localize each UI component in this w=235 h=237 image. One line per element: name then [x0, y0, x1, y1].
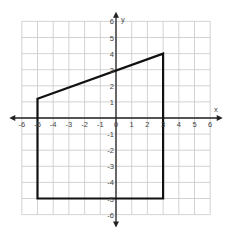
y-tick-label: 4 [110, 50, 114, 59]
x-axis-arrow-right-icon [217, 115, 223, 121]
x-tick-label: 1 [130, 120, 134, 129]
x-tick-label: 3 [161, 120, 165, 129]
coordinate-plane: -6-5-4-3-2-10123456-6-5-4-3-2-1123456 x … [0, 0, 235, 237]
x-tick-label: 0 [114, 120, 118, 129]
y-tick-label: 3 [110, 66, 114, 75]
x-tick-label: -3 [66, 120, 73, 129]
x-tick-label: 6 [208, 120, 212, 129]
y-tick-label: 1 [110, 98, 114, 107]
y-tick-label: -1 [107, 130, 114, 139]
x-tick-label: 5 [192, 120, 196, 129]
y-axis-arrow-down-icon [113, 221, 119, 227]
x-axis-arrow-left-icon [9, 115, 15, 121]
x-axis-label: x [214, 105, 218, 114]
x-tick-label: -1 [97, 120, 104, 129]
y-tick-label: 6 [110, 17, 114, 26]
y-tick-label: -5 [107, 195, 114, 204]
x-tick-label: 2 [145, 120, 149, 129]
y-tick-label: 5 [110, 34, 114, 43]
x-tick-label: -2 [81, 120, 88, 129]
x-tick-label: 4 [177, 120, 181, 129]
x-tick-label: -5 [34, 120, 41, 129]
y-tick-label: 2 [110, 82, 114, 91]
y-tick-label: -2 [107, 146, 114, 155]
y-tick-label: -3 [107, 162, 114, 171]
x-tick-label: -4 [50, 120, 57, 129]
x-tick-label: -6 [18, 120, 25, 129]
y-axis-label: y [121, 15, 125, 24]
y-tick-label: -4 [107, 178, 114, 187]
y-tick-label: -6 [107, 211, 114, 220]
